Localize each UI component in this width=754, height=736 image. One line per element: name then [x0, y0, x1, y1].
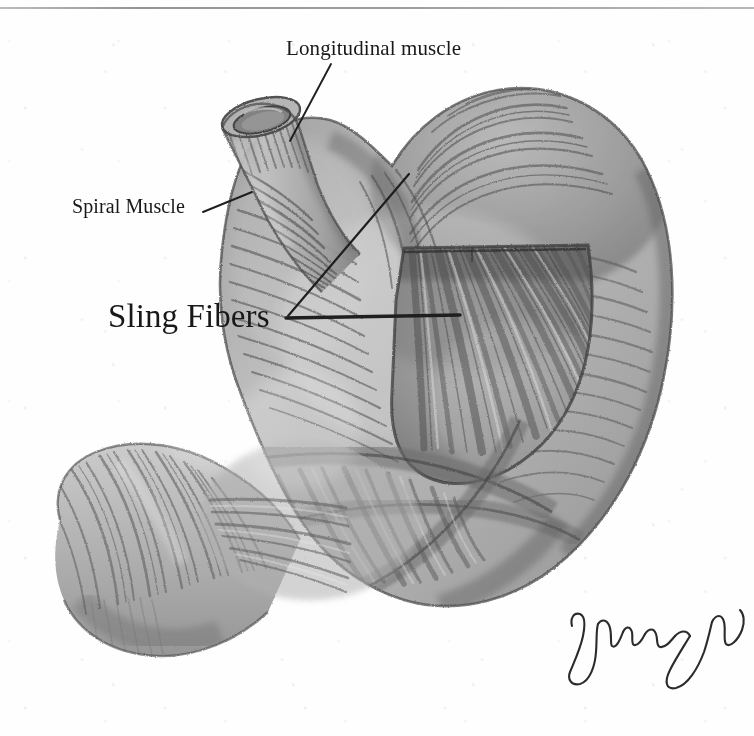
label-spiral-muscle: Spiral Muscle — [72, 195, 185, 218]
stomach-anatomy-drawing — [0, 0, 754, 736]
artist-signature — [569, 610, 744, 688]
label-sling-fibers: Sling Fibers — [108, 298, 270, 335]
illustration-page: Longitudinal muscle Spiral Muscle Sling … — [0, 0, 754, 736]
label-longitudinal-muscle: Longitudinal muscle — [286, 36, 461, 61]
